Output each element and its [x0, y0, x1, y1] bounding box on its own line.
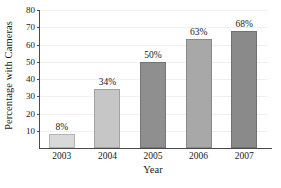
bars-layer: 8%34%50%63%68%	[39, 10, 267, 148]
bar-slot: 34%	[94, 10, 120, 148]
y-axis-tick-labels: 1020304050607080	[16, 10, 37, 148]
bar-value-label: 68%	[235, 19, 252, 29]
y-axis-tick-label: 50	[26, 57, 35, 66]
bar	[140, 62, 166, 148]
y-axis-tick-label: 80	[26, 6, 35, 15]
y-axis-title-text: Percentage with Cameras	[3, 20, 14, 129]
y-axis-tick-label: 70	[26, 23, 35, 32]
bar-slot: 50%	[140, 10, 166, 148]
x-axis-tick-label: 2005	[144, 151, 163, 162]
bar	[49, 134, 75, 148]
x-axis-tick-label: 2004	[98, 151, 117, 162]
bar-slot: 63%	[186, 10, 212, 148]
x-axis-tick-label: 2003	[52, 151, 71, 162]
bar-slot: 68%	[231, 10, 257, 148]
y-axis-tick-label: 20	[26, 109, 35, 118]
bar-value-label: 50%	[144, 50, 161, 60]
bar-slot: 8%	[49, 10, 75, 148]
bar	[94, 89, 120, 148]
bar-value-label: 34%	[99, 77, 116, 87]
y-axis-tick-label: 40	[26, 75, 35, 84]
bar	[186, 39, 212, 148]
y-axis-title: Percentage with Cameras	[0, 0, 16, 150]
x-axis-tick-label: 2007	[235, 151, 254, 162]
bar-value-label: 63%	[190, 27, 207, 37]
bar-chart: Percentage with Cameras 1020304050607080…	[0, 0, 281, 188]
bar	[231, 31, 257, 148]
x-axis-tick-labels: 20032004200520062007	[39, 151, 267, 164]
x-axis-tick-label: 2006	[189, 151, 208, 162]
y-axis-tick-label: 10	[26, 126, 35, 135]
y-axis-tick-label: 30	[26, 92, 35, 101]
y-axis-tick-label: 60	[26, 40, 35, 49]
x-axis-line	[39, 148, 272, 149]
bar-value-label: 8%	[55, 122, 68, 132]
x-axis-title: Year	[39, 164, 267, 176]
